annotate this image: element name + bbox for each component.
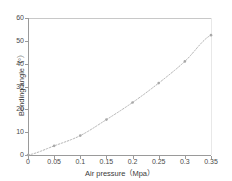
data-point-marker (184, 60, 187, 63)
chart-figure: 0102030405060 00.050.10.150.20.250.30.35… (0, 0, 232, 181)
y-tick-label-text: 60 (2, 14, 24, 22)
data-series-bending-angle (28, 18, 211, 155)
plot-right-border (211, 18, 212, 155)
plot-area (28, 18, 211, 155)
data-markers (27, 34, 213, 156)
data-point-marker (157, 82, 160, 85)
x-axis-title: Air pressure（Mpa） (28, 167, 211, 178)
x-tick-label: 0.35 (196, 158, 226, 166)
y-tick-label: 60 (0, 14, 24, 22)
data-point-marker (79, 134, 82, 137)
data-point-marker (210, 34, 213, 37)
data-point-marker (27, 154, 30, 157)
data-point-marker (105, 118, 108, 121)
data-point-marker (131, 101, 134, 104)
data-point-marker (53, 145, 56, 148)
x-tick-label-text: 0.35 (196, 158, 226, 166)
x-axis-line (28, 155, 211, 156)
y-axis-title: Bending angle（°） (15, 29, 26, 139)
data-line (28, 35, 211, 155)
